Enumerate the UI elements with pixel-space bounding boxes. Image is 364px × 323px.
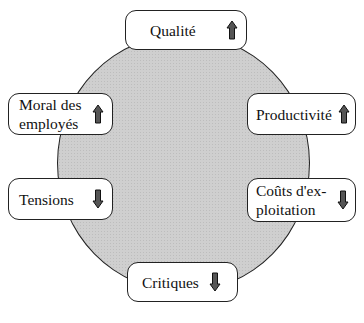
box-tensions: Tensions	[8, 178, 113, 220]
box-couts: Coûts d'ex- ploitation	[247, 178, 356, 222]
arrow-down-icon	[92, 189, 104, 209]
label-critiques: Critiques	[142, 273, 203, 292]
label-qualite: Qualité	[150, 21, 220, 40]
arrow-down-icon	[337, 190, 349, 210]
central-circle	[57, 34, 310, 292]
label-moral-line2: employés	[19, 115, 78, 132]
box-moral: Moral des employés	[8, 93, 113, 135]
label-moral-line1: Moral des	[19, 96, 81, 113]
arrow-up-icon	[338, 104, 350, 124]
label-couts-line2: ploitation	[256, 201, 315, 218]
arrow-up-icon	[226, 20, 238, 40]
arrow-up-icon	[92, 104, 104, 124]
box-productivite: Productivité	[247, 93, 356, 135]
arrow-down-icon	[209, 272, 221, 292]
box-critiques: Critiques	[127, 262, 238, 302]
box-qualite: Qualité	[125, 10, 247, 50]
label-couts-line1: Coûts d'ex-	[256, 182, 326, 199]
label-productivite: Productivité	[256, 105, 336, 124]
label-tensions: Tensions	[19, 190, 86, 209]
